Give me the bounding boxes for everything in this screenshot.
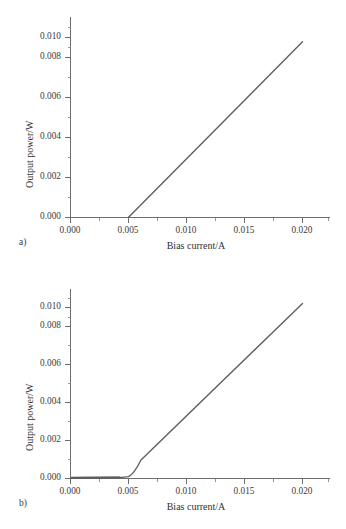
panel-a-ytick-label-4: 0.008 <box>28 52 61 61</box>
panel-b-xtick-label-4: 0.020 <box>292 487 313 496</box>
panel-a: 0.000 0.002 0.004 0.006 0.008 0.010 0.00… <box>0 0 346 265</box>
panel-b: 0.000 0.002 0.004 0.006 0.008 0.010 0.00… <box>0 265 346 529</box>
panel-a-label: a) <box>19 237 26 247</box>
panel-b-ytick-label-3: 0.006 <box>28 359 61 368</box>
panel-a-xtick-label-1: 0.005 <box>118 226 139 235</box>
panel-b-data-line <box>71 304 303 478</box>
panel-b-xtick-label-3: 0.015 <box>234 487 255 496</box>
panel-a-xtick-label-3: 0.015 <box>234 226 255 235</box>
panel-a-x-axis-title: Bias current/A <box>167 240 226 251</box>
panel-a-data-line <box>129 42 303 217</box>
panel-b-xtick-label-0: 0.000 <box>60 487 81 496</box>
panel-b-x-axis-title: Bias current/A <box>167 501 226 512</box>
panel-b-x-major-ticks <box>71 479 303 485</box>
panel-b-ytick-label-0: 0.000 <box>28 473 61 482</box>
panel-a-xtick-label-4: 0.020 <box>292 226 313 235</box>
panel-b-y-major-ticks <box>65 308 71 479</box>
panel-a-y-major-ticks <box>65 38 71 218</box>
panel-b-ytick-label-5: 0.010 <box>28 302 61 311</box>
panel-b-xtick-label-2: 0.010 <box>176 487 197 496</box>
panel-b-label: b) <box>19 498 27 508</box>
panel-b-xtick-label-1: 0.005 <box>118 487 139 496</box>
panel-b-y-axis-title: Output power/W <box>24 384 35 452</box>
panel-a-ytick-label-5: 0.010 <box>28 32 61 41</box>
panel-a-y-axis-title: Output power/W <box>24 121 35 189</box>
figure-two-panel-lid-curves: 0.000 0.002 0.004 0.006 0.008 0.010 0.00… <box>0 0 346 529</box>
panel-b-ytick-label-4: 0.008 <box>28 321 61 330</box>
panel-a-ytick-label-0: 0.000 <box>28 212 61 221</box>
panel-a-x-major-ticks <box>71 218 303 224</box>
panel-a-xtick-label-2: 0.010 <box>176 226 197 235</box>
panel-a-xtick-label-0: 0.000 <box>60 226 81 235</box>
panel-a-ytick-label-3: 0.006 <box>28 92 61 101</box>
